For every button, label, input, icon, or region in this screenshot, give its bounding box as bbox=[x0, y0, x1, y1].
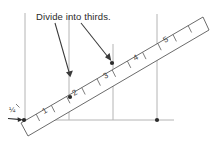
point-second-third bbox=[110, 61, 114, 65]
annotation-group: Divide into thirds. bbox=[36, 11, 111, 77]
annotation-arrow-right-shaft bbox=[81, 23, 108, 57]
point-origin bbox=[22, 118, 26, 122]
annotation-arrow-left-shaft bbox=[55, 23, 69, 72]
construction-lines bbox=[22, 13, 174, 120]
point-first-third bbox=[68, 95, 72, 99]
ruler-body bbox=[21, 17, 209, 136]
figure-container: 1 2 3 4 5 ¼ Divide into thirds. bbox=[0, 0, 222, 143]
divide-into-thirds-diagram: 1 2 3 4 5 ¼ Divide into thirds. bbox=[0, 0, 222, 143]
origin-label-group: ¼ bbox=[8, 104, 23, 122]
origin-label: ¼ bbox=[9, 105, 16, 114]
annotation-label: Divide into thirds. bbox=[36, 11, 111, 22]
origin-label-tick bbox=[16, 104, 20, 108]
ruler: 1 2 3 4 5 bbox=[21, 17, 209, 136]
annotation-arrow-left-head bbox=[66, 71, 73, 78]
origin-pointer-arrowhead bbox=[18, 117, 23, 122]
point-baseline-right bbox=[155, 118, 159, 122]
